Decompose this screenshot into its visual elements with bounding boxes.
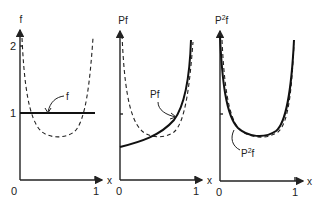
- x-tick-label-1: 1: [193, 185, 199, 197]
- dashed-reference-curve: [22, 38, 93, 137]
- curve-label: Pf: [150, 89, 160, 100]
- y-axis-label: P2f: [215, 14, 229, 26]
- y-axis-label: Pf: [118, 15, 128, 26]
- x-tick-label-1: 1: [292, 186, 298, 198]
- panel-Pf: Pf 0 1 x Pf: [116, 15, 212, 197]
- panel-f: f 2 1 0 1 x f: [10, 14, 112, 197]
- panel-P2f: P2f 0 1 x P2f: [215, 14, 312, 198]
- figure: f 2 1 0 1 x f Pf 0 1 x Pf P2f 0 1 x: [0, 0, 321, 207]
- x-tick-label-1: 1: [93, 185, 99, 197]
- origin-label: 0: [216, 186, 222, 198]
- x-axis-label: x: [307, 176, 312, 187]
- x-axis-label: x: [207, 175, 212, 186]
- label-leader: [232, 130, 240, 150]
- origin-label: 0: [11, 185, 17, 197]
- y-tick-label-1: 1: [10, 107, 16, 119]
- y-axis-label: f: [20, 14, 23, 25]
- y-tick-label-2: 2: [10, 40, 16, 52]
- curve-label: P2f: [241, 147, 255, 159]
- solid-curve-P2f: [220, 36, 294, 136]
- x-axis-label: x: [107, 175, 112, 186]
- curve-label: f: [66, 91, 69, 102]
- origin-label: 0: [116, 185, 122, 197]
- dashed-reference-curve: [222, 40, 294, 137]
- dashed-reference-curve: [122, 35, 193, 137]
